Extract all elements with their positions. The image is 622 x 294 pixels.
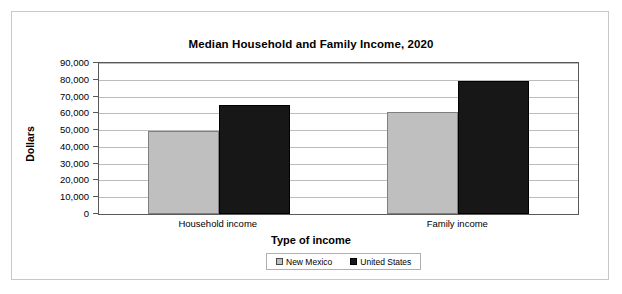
y-axis-labels: 90,00080,00070,00060,00050,00040,00030,0… (12, 62, 98, 215)
gridline (99, 63, 578, 64)
bar-new-mexico-family-income (387, 112, 458, 214)
plot-area (98, 62, 579, 215)
y-axis-tick-label: 10,000 (60, 191, 89, 202)
y-axis-tick-label: 0 (84, 208, 89, 219)
chart-legend: New Mexico United States (266, 253, 421, 270)
legend-swatch-new-mexico (276, 258, 283, 265)
y-axis-tick-label: 80,000 (60, 73, 89, 84)
x-axis-category-label: Household income (178, 218, 257, 229)
y-axis-tick-label: 50,000 (60, 124, 89, 135)
x-axis-title: Type of income (12, 234, 610, 246)
y-axis-tick-label: 60,000 (60, 107, 89, 118)
x-axis-category-label: Family income (427, 218, 488, 229)
legend-label-new-mexico: New Mexico (286, 257, 332, 267)
bar-united-states-family-income (458, 81, 529, 214)
legend-item-united-states: United States (350, 257, 411, 267)
chart-title: Median Household and Family Income, 2020 (12, 38, 610, 50)
legend-label-united-states: United States (360, 257, 411, 267)
bar-united-states-household-income (219, 105, 290, 214)
y-axis-tick-label: 90,000 (60, 57, 89, 68)
legend-swatch-united-states (350, 258, 357, 265)
y-axis-tick-label: 30,000 (60, 157, 89, 168)
legend-item-new-mexico: New Mexico (276, 257, 332, 267)
y-axis-tick-label: 70,000 (60, 90, 89, 101)
chart-frame: Median Household and Family Income, 2020… (11, 11, 609, 280)
y-axis-tick-label: 20,000 (60, 174, 89, 185)
y-axis-tick-label: 40,000 (60, 140, 89, 151)
bar-new-mexico-household-income (148, 131, 219, 214)
